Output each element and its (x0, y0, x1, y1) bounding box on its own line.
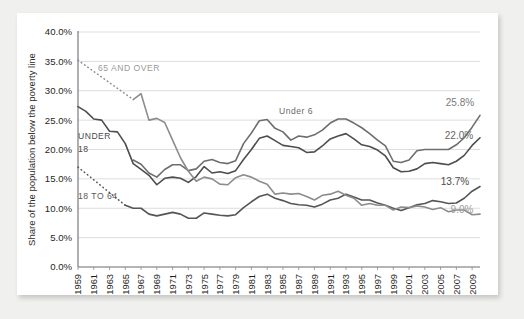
x-axis-tick-label: 1965 (121, 274, 131, 295)
x-axis-tick-label: 2001 (404, 274, 414, 295)
x-axis-tick-label: 2005 (436, 274, 446, 295)
x-axis-tick-label: 1991 (326, 274, 336, 295)
series-value-label: 13.7% (441, 176, 469, 187)
y-axis-tick-label: 35.0% (45, 56, 73, 67)
x-axis-tick-label: 2007 (452, 274, 462, 295)
y-axis-tick-label: 5.0% (50, 232, 72, 243)
x-axis-tick-label: 1993 (341, 274, 351, 295)
series-value-label: 22.0% (445, 130, 473, 141)
x-axis-tick-label: 1973 (184, 274, 194, 295)
series-line (133, 115, 480, 177)
y-axis-tick-label: 10.0% (45, 203, 73, 214)
y-axis-tick-label: 0.0% (50, 261, 72, 272)
x-axis-tick-label: 1963 (105, 274, 115, 295)
x-axis-tick-label: 1987 (294, 274, 304, 295)
x-axis-tick-label: 1979 (231, 274, 241, 295)
series-annotation-label: 18 TO 64 (78, 191, 118, 201)
series-annotation-label: UNDER (78, 131, 111, 141)
screenshot-root: 0.0%5.0%10.0%15.0%20.0%25.0%30.0%35.0%40… (0, 0, 524, 319)
series-annotation-label: 18 (78, 144, 89, 154)
x-axis-tick-label: 1995 (357, 274, 367, 295)
x-axis-tick-label: 1967 (136, 274, 146, 295)
y-axis-title: Share of the population below the povert… (26, 53, 37, 246)
series-line (125, 187, 480, 219)
y-axis-tick-label: 15.0% (45, 173, 73, 184)
y-axis-tick-label: 40.0% (45, 26, 73, 37)
series-line (78, 107, 480, 185)
x-axis-tick-label: 1977 (215, 274, 225, 295)
x-axis-tick-label: 1983 (263, 274, 273, 295)
series-annotation-label: Under 6 (279, 106, 313, 116)
x-axis-tick-label: 1997 (373, 274, 383, 295)
x-axis-tick-label: 1989 (310, 274, 320, 295)
y-axis-tick-label: 20.0% (45, 144, 73, 155)
poverty-line-chart: 0.0%5.0%10.0%15.0%20.0%25.0%30.0%35.0%40… (17, 13, 498, 295)
x-axis-tick-label: 2003 (420, 274, 430, 295)
y-axis-tick-label: 30.0% (45, 85, 73, 96)
x-axis-tick-label: 2009 (468, 274, 478, 295)
y-axis-tick-label: 25.0% (45, 115, 73, 126)
x-axis-tick-label: 1985 (278, 274, 288, 295)
chart-plot-area: 0.0%5.0%10.0%15.0%20.0%25.0%30.0%35.0%40… (17, 13, 498, 295)
x-axis-tick-label: 1981 (247, 274, 257, 295)
series-annotation-label: 65 AND OVER (98, 63, 160, 73)
series-value-label: 25.8% (446, 97, 474, 108)
x-axis-tick-label: 1971 (168, 274, 178, 295)
x-axis-tick-label: 1961 (89, 274, 99, 295)
x-axis-tick-label: 1959 (73, 274, 83, 295)
chart-card: 0.0%5.0%10.0%15.0%20.0%25.0%30.0%35.0%40… (17, 13, 498, 295)
x-axis-tick-label: 1999 (389, 274, 399, 295)
x-axis-tick-label: 1969 (152, 274, 162, 295)
series-value-label: 9.0% (451, 204, 474, 215)
x-axis-tick-label: 1975 (200, 274, 210, 295)
